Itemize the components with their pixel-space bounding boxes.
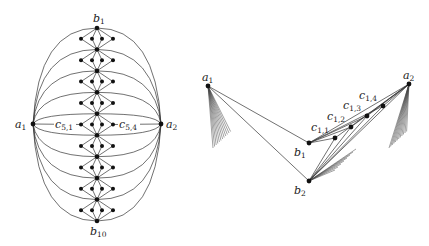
b2-label: b2 (294, 184, 306, 198)
gadget-vertex (90, 208, 94, 212)
c-vertex-2 (349, 125, 354, 130)
gadget-vertex (90, 144, 94, 148)
edge-a1-b (33, 124, 97, 178)
gadget-vertex (111, 80, 115, 84)
b2-vertex (307, 179, 312, 184)
gadget-vertex (111, 123, 115, 127)
gadget-vertex (111, 37, 115, 41)
fan-edge-b2 (309, 149, 356, 181)
b-vertex (95, 111, 100, 116)
gadget-vertex (79, 208, 83, 212)
c-vertex-4 (381, 104, 386, 109)
gadget-vertex (79, 80, 83, 84)
gadget-vertex (90, 101, 94, 105)
b-vertex (95, 90, 100, 95)
gadget-vertex (100, 123, 104, 127)
gadget-vertex (100, 58, 104, 62)
gadget-vertex (111, 165, 115, 169)
gadget-vertex (111, 144, 115, 148)
b1-label: b1 (294, 146, 306, 160)
gadget-vertex (111, 208, 115, 212)
c-vertex-3 (365, 114, 370, 119)
left-graph-diagram: a1a2b1b10c5,1c5,4 (15, 12, 178, 239)
b-vertex (95, 133, 100, 138)
b1-label: b1 (93, 12, 105, 26)
a1-label: a1 (15, 118, 26, 132)
b10-label: b10 (90, 225, 107, 239)
a2-label: a2 (166, 118, 178, 132)
edge-a1-b (33, 71, 97, 124)
gadget-vertex (90, 58, 94, 62)
gadget-vertex (100, 165, 104, 169)
gadget-vertex (100, 208, 104, 212)
gadget-vertex (100, 101, 104, 105)
a2-vertex (159, 122, 164, 127)
gadget-vertex (90, 187, 94, 191)
gadget-vertex (111, 187, 115, 191)
gadget-vertex (79, 101, 83, 105)
fan-edge-a1 (208, 86, 219, 142)
gadget-vertex (100, 144, 104, 148)
edge-a2-b (97, 71, 161, 124)
gadget-vertex (90, 165, 94, 169)
gadget-vertex (111, 101, 115, 105)
edge-a2-b (97, 124, 161, 178)
b-vertex (95, 197, 100, 202)
right-graph-diagram: a1a2b1b2c1,1c1,2c1,3c1,4 (202, 69, 415, 198)
gadget-vertex (79, 123, 83, 127)
gadget-vertex (100, 187, 104, 191)
gadget-vertex (90, 80, 94, 84)
c-label-4: c1,4 (359, 89, 377, 103)
b-vertex (95, 154, 100, 159)
gadget-vertex (111, 58, 115, 62)
b-vertex (95, 176, 100, 181)
b-vertex (95, 69, 100, 74)
b-vertex (95, 26, 100, 31)
a1-vertex (31, 122, 36, 127)
a2-label: a2 (403, 69, 415, 83)
b1-vertex (307, 141, 312, 146)
c-vertex-1 (333, 136, 338, 141)
c-label-1: c1,1 (311, 121, 329, 135)
c-label-2: c1,2 (327, 110, 345, 124)
gadget-vertex (79, 58, 83, 62)
gadget-vertex (79, 37, 83, 41)
edge-a1-b (33, 49, 97, 124)
gadget-vertex (90, 123, 94, 127)
a1-label: a1 (202, 71, 213, 85)
gadget-vertex (79, 187, 83, 191)
gadget-vertex (100, 80, 104, 84)
b-vertex (95, 219, 100, 224)
gadget-vertex (79, 165, 83, 169)
b-vertex (95, 47, 100, 52)
gadget-vertex (100, 37, 104, 41)
gadget-vertex (90, 37, 94, 41)
graph-drawing-figure: a1a2b1b10c5,1c5,4 a1a2b1b2c1,1c1,2c1,3c1… (0, 0, 429, 246)
fan-edge-a1 (208, 86, 218, 144)
edge-a2-b (97, 49, 161, 124)
gadget-vertex (79, 144, 83, 148)
